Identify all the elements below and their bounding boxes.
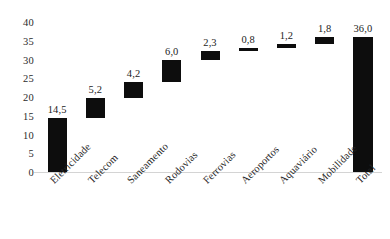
- y-axis-tick-10: 10: [23, 129, 34, 140]
- y-axis-tick-25: 25: [23, 73, 34, 84]
- bar-aquavi-rio: [277, 44, 296, 49]
- bar-rodovias: [162, 60, 181, 83]
- y-axis-tick-40: 40: [23, 17, 34, 28]
- bar-value-label-total: 36,0: [353, 23, 372, 34]
- bar-saneamento: [124, 82, 143, 98]
- bar-value-label-rodovias: 6,0: [165, 46, 178, 57]
- bar-value-label-mobilidade: 1,8: [318, 23, 331, 34]
- y-axis-tick-20: 20: [23, 92, 34, 103]
- bar-value-label-telecom: 5,2: [89, 84, 102, 95]
- bar-mobilidade: [315, 37, 334, 44]
- bar-value-label-aquavi-rio: 1,2: [280, 30, 293, 41]
- y-axis-tick-15: 15: [23, 110, 34, 121]
- y-axis-tick-30: 30: [23, 54, 34, 65]
- bar-aeroportos: [239, 48, 258, 51]
- bar-telecom: [86, 98, 105, 118]
- bar-value-label-aeroportos: 0,8: [242, 34, 255, 45]
- y-axis-tick-35: 35: [23, 35, 34, 46]
- bar-ferrovias: [201, 51, 220, 60]
- waterfall-chart: 0510152025303540 14,55,24,26,02,30,81,21…: [0, 0, 390, 239]
- bar-value-label-eletricidade: 14,5: [48, 104, 67, 115]
- y-axis-tick-5: 5: [29, 148, 34, 159]
- bar-value-label-ferrovias: 2,3: [203, 37, 216, 48]
- bar-value-label-saneamento: 4,2: [127, 68, 140, 79]
- x-axis-category-labels: EletricidadeTelecomSaneamentoRodoviasFer…: [0, 172, 390, 239]
- y-axis: 0510152025303540: [0, 22, 34, 172]
